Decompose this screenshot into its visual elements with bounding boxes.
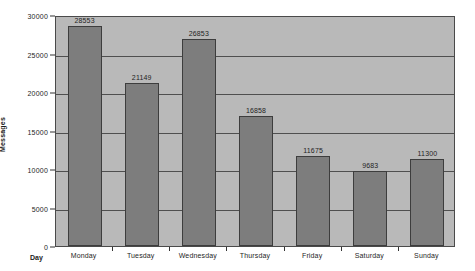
- bar-value-label: 16858: [246, 107, 266, 114]
- x-axis-tick-mark: [341, 247, 342, 251]
- x-axis-tick-label: Thursday: [240, 252, 270, 259]
- y-axis-tick-label: 15000: [28, 128, 48, 135]
- bar: [410, 159, 444, 246]
- x-axis-title: Day: [30, 254, 43, 261]
- bar: [68, 26, 102, 246]
- x-axis-tick-mark: [169, 247, 170, 251]
- bar: [353, 171, 387, 246]
- y-axis-tick-label: 0: [44, 244, 48, 251]
- x-axis-tick-label: Monday: [71, 252, 97, 259]
- bar-value-label: 28553: [74, 17, 94, 24]
- x-axis-tick-label: Tuesday: [127, 252, 155, 259]
- y-axis-tick-label: 30000: [28, 13, 48, 20]
- y-axis-tick-label: 20000: [28, 90, 48, 97]
- bar: [296, 156, 330, 246]
- x-axis-labels: MondayTuesdayWednesdayThursdayFridaySatu…: [55, 252, 455, 268]
- x-axis-tick-label: Friday: [302, 252, 322, 259]
- bar-value-label: 9683: [362, 162, 378, 169]
- plot-area: 2855321149268531685811675968311300: [55, 16, 455, 247]
- x-axis-tick-label: Sunday: [414, 252, 439, 259]
- bar: [125, 83, 159, 246]
- bar-value-label: 26853: [189, 30, 209, 37]
- y-axis-tick-label: 10000: [28, 167, 48, 174]
- x-axis-tick-mark: [112, 247, 113, 251]
- x-axis-tick-mark: [284, 247, 285, 251]
- x-axis-tick-mark: [398, 247, 399, 251]
- bar: [239, 116, 273, 246]
- bar-value-label: 11675: [303, 147, 323, 154]
- x-axis-tick-mark: [226, 247, 227, 251]
- bar-chart-figure: Messages 050001000015000200002500030000 …: [0, 0, 475, 271]
- y-axis-tick-label: 5000: [32, 205, 48, 212]
- gridline: [56, 56, 454, 57]
- y-axis: 050001000015000200002500030000: [0, 16, 55, 247]
- bar-value-label: 11300: [418, 150, 438, 157]
- gridline: [56, 94, 454, 95]
- bar-value-label: 21149: [132, 74, 152, 81]
- x-axis-tick-label: Saturday: [355, 252, 384, 259]
- bar: [182, 39, 216, 246]
- y-axis-tick-label: 25000: [28, 51, 48, 58]
- x-axis-tick-label: Wednesday: [179, 252, 217, 259]
